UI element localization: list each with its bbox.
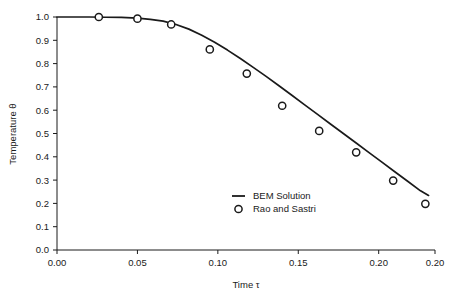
data-point-marker [243, 70, 250, 77]
x-tick-label: 0.05 [128, 257, 147, 268]
data-point-marker [134, 15, 141, 22]
data-point-marker [316, 127, 323, 134]
y-tick-label: 0.5 [36, 128, 49, 139]
y-tick-label: 0.3 [36, 175, 49, 186]
y-tick-label: 1.0 [36, 11, 49, 22]
legend-label: BEM Solution [253, 190, 311, 201]
y-tick-label: 0.9 [36, 35, 49, 46]
legend-label: Rao and Sastri [253, 203, 316, 214]
data-point-marker [168, 21, 175, 28]
data-point-marker [279, 102, 286, 109]
axes: 0.00.10.20.30.40.50.60.70.80.91.00.000.0… [36, 11, 444, 268]
y-tick-label: 0.6 [36, 105, 49, 116]
y-tick-label: 0.7 [36, 81, 49, 92]
chart-legend: BEM SolutionRao and Sastri [232, 190, 316, 214]
x-tick-label: 0.20 [369, 257, 388, 268]
y-tick-label: 0.8 [36, 58, 49, 69]
x-tick-label: 0.20 [426, 257, 445, 268]
x-axis-title: Time τ [232, 279, 259, 290]
data-series [57, 13, 429, 207]
chart-figure: 0.00.10.20.30.40.50.60.70.80.91.00.000.0… [0, 0, 461, 302]
legend-marker-swatch [235, 205, 242, 212]
y-tick-label: 0.4 [36, 151, 49, 162]
y-tick-label: 0.0 [36, 244, 49, 255]
x-tick-label: 0.10 [209, 257, 228, 268]
y-tick-label: 0.2 [36, 198, 49, 209]
data-point-marker [390, 177, 397, 184]
x-tick-label: 0.00 [48, 257, 67, 268]
data-point-marker [353, 149, 360, 156]
data-point-marker [206, 46, 213, 53]
y-tick-label: 0.1 [36, 221, 49, 232]
bem-solution-curve [57, 17, 429, 195]
data-point-marker [95, 13, 102, 20]
chart-canvas: 0.00.10.20.30.40.50.60.70.80.91.00.000.0… [0, 0, 461, 302]
y-axis-title: Temperature θ [7, 103, 18, 164]
x-tick-label: 0.15 [289, 257, 308, 268]
data-point-marker [422, 200, 429, 207]
